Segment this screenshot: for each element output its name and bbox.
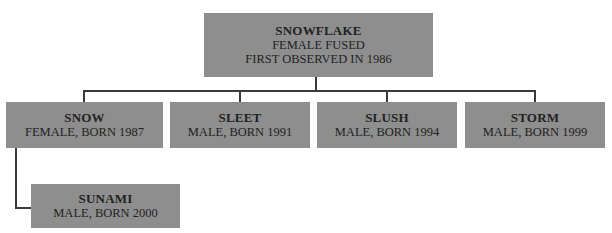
node-sleet: SLEET MALE, BORN 1991 <box>170 102 310 148</box>
root-connector-vertical <box>315 77 317 91</box>
node-name: SLUSH <box>365 111 409 126</box>
node-name: STORM <box>511 111 559 126</box>
connector-storm <box>534 90 536 102</box>
node-detail: MALE, BORN 1999 <box>483 125 588 139</box>
connector-snow-to-sunami-horizontal <box>15 207 31 209</box>
node-snowflake: SNOWFLAKE FEMALE FUSED FIRST OBSERVED IN… <box>204 13 433 77</box>
node-name: SNOW <box>64 111 105 126</box>
node-detail: MALE, BORN 1991 <box>188 125 293 139</box>
node-name: SLEET <box>219 111 262 126</box>
sibling-connector-horizontal <box>83 90 536 92</box>
node-detail: FEMALE, BORN 1987 <box>25 125 144 139</box>
node-storm: STORM MALE, BORN 1999 <box>465 102 605 148</box>
node-name: SUNAMI <box>79 192 133 207</box>
node-detail: MALE, BORN 2000 <box>53 206 158 220</box>
node-snow: SNOW FEMALE, BORN 1987 <box>6 102 163 148</box>
node-sunami: SUNAMI MALE, BORN 2000 <box>31 184 180 228</box>
node-slush: SLUSH MALE, BORN 1994 <box>317 102 457 148</box>
node-detail: FIRST OBSERVED IN 1986 <box>245 52 391 66</box>
node-name: SNOWFLAKE <box>275 24 361 39</box>
node-detail: FEMALE FUSED <box>272 38 365 52</box>
node-detail: MALE, BORN 1994 <box>335 125 440 139</box>
connector-slush <box>386 90 388 102</box>
connector-snow-to-sunami-vertical <box>15 148 17 208</box>
connector-snow <box>83 90 85 102</box>
connector-sleet <box>239 90 241 102</box>
